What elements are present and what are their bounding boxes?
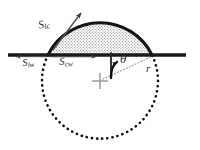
label-slw-subscript: lw (27, 60, 34, 69)
dotted-circle (42, 55, 158, 139)
label-radius-r: r (146, 63, 150, 74)
label-angle-theta: θ (120, 52, 126, 65)
cap-region (48, 23, 152, 55)
circle-center-marker (92, 73, 108, 89)
figure-canvas: Slc Slw Scw θ r (0, 0, 200, 150)
label-liquid-cap: Slc (37, 17, 50, 30)
geometry-diagram (0, 0, 200, 150)
label-liquid-wall: Slw (22, 57, 34, 68)
label-scw-subscript: cw (64, 59, 73, 69)
label-cap-wall: Scw (59, 56, 73, 67)
